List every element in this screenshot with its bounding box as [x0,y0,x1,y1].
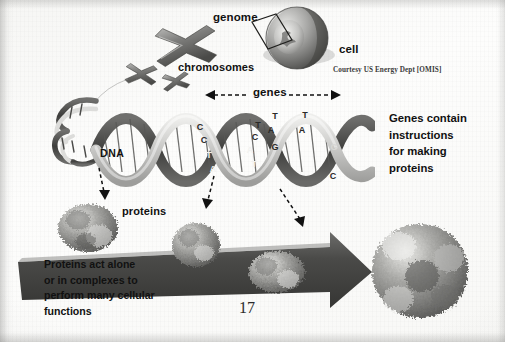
svg-text:C: C [197,122,204,132]
label-genome: genome [213,11,258,23]
svg-text:C: C [201,135,208,145]
proteins-function-note: Proteins act alone or in complexes to pe… [44,257,229,319]
genes-note-line-3: for making [389,143,501,160]
protein-blob-3 [249,251,305,293]
svg-text:C: C [252,132,259,142]
svg-text:T: T [272,111,278,121]
svg-text:T: T [251,159,257,169]
dna-base-group-middle: T C A T G [247,120,279,169]
svg-text:G: G [271,142,278,152]
genes-note-line-2: instructions [389,127,501,144]
genes-instructions-note: Genes contain instructions for making pr… [389,110,501,176]
proteins-note-line-2: or in complexes to [44,273,229,289]
svg-text:A: A [210,164,217,174]
svg-text:T: T [255,120,261,130]
proteins-note-line-3: perform many cellular [44,288,229,304]
proteins-note-line-1: Proteins act alone [44,257,229,273]
proteins-note-line-4: functions [44,304,229,320]
svg-text:A: A [299,125,306,135]
page-number: 17 [239,299,255,317]
scan-edge-bottom [0,332,505,342]
scan-edge-top [0,0,505,9]
protein-complex-large [372,224,468,318]
genome-callout-box [252,14,292,49]
diagram-page: C C T A T C A T G T A T A G C genome [0,0,505,342]
cell-illustration [263,7,335,69]
label-cell: cell [339,43,359,55]
dna-base-group-right: T A T A G C [268,110,338,181]
svg-text:A: A [268,125,275,135]
source-credit: Courtesy US Energy Dept [OMIS] [333,66,441,74]
label-proteins: proteins [122,205,166,217]
genes-note-line-1: Genes contain [389,110,501,127]
scan-edge-left [0,0,13,342]
genes-note-line-4: proteins [389,160,501,177]
svg-text:G: G [330,142,337,152]
svg-text:T: T [302,110,308,120]
svg-text:A: A [247,145,254,155]
label-genes: genes [253,86,287,98]
label-chromosomes: chromosomes [178,61,254,73]
dna-helix-illustration [55,100,372,181]
dna-base-group-left: C C T A [197,122,217,174]
svg-text:C: C [330,171,337,181]
svg-text:T: T [206,150,212,160]
dna-unwound-coil [55,100,99,164]
protein-blob-1 [58,204,118,252]
label-dna: DNA [100,147,125,159]
dna-base-letters: C C T A T C A T G T A T A G C [197,110,338,181]
